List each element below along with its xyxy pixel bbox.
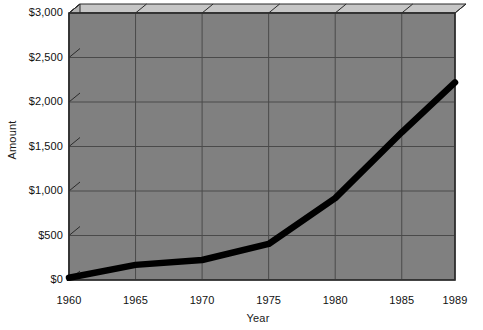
plot-area bbox=[0, 0, 483, 330]
chart-top-wall bbox=[69, 4, 466, 13]
line-chart: Amount $0$500$1,000$1,500$2,000$2,500$3,… bbox=[0, 0, 483, 330]
